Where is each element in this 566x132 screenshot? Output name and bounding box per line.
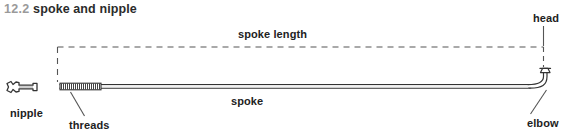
- spoke-diagram-artwork: [0, 0, 566, 132]
- elbow-shape: [528, 73, 547, 89]
- label-threads: threads: [69, 119, 109, 131]
- label-elbow: elbow: [527, 117, 559, 129]
- spoke-shaft-interior: [60, 85, 528, 87]
- threads-hatching: [60, 83, 101, 90]
- label-spoke-length: spoke length: [238, 28, 307, 40]
- figure-spoke-and-nipple: 12.2 spoke and nipple: [0, 0, 566, 132]
- label-spoke: spoke: [231, 95, 263, 107]
- threads-leader-line: [71, 92, 85, 116]
- elbow-leader-line: [531, 90, 547, 114]
- label-nipple: nipple: [10, 107, 43, 119]
- spoke-length-dimension: [58, 47, 544, 82]
- label-head: head: [533, 12, 559, 24]
